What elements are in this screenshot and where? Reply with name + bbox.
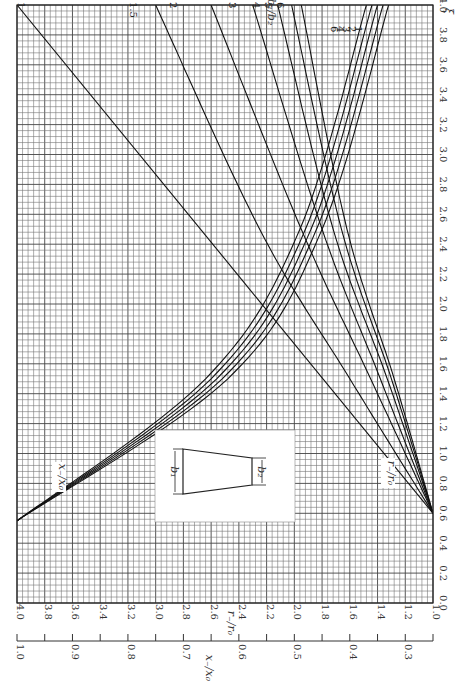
inset-diagram: b₁ b₂ (155, 430, 295, 522)
xi-tick-label: 3.2 (438, 117, 449, 133)
x-tick-label: 0.5 (292, 644, 303, 660)
xi-tick-label: 0.8 (438, 475, 449, 491)
xi-tick-label: 0.2 (438, 565, 449, 581)
r-tick-label: 1.2 (403, 604, 414, 620)
b-ratio-label: 4 (251, 2, 262, 8)
r-curve-tag: r₋/r₀ (381, 458, 398, 488)
xi-tick-label: 1.6 (438, 356, 449, 372)
inset-b1-label: b₁ (168, 466, 181, 477)
xi-tick-label: 1.4 (438, 386, 449, 402)
r-tick-label: 2.6 (209, 604, 220, 620)
b-ratio-label: 1.5 (128, 2, 139, 18)
x-tick-label: 0.7 (181, 644, 192, 660)
xi-tick-label: 3.6 (438, 57, 449, 73)
r-tick-label: 2.2 (265, 604, 276, 620)
xi-tick-label: 2.8 (438, 176, 449, 192)
xi-axis-title: ξ (442, 8, 455, 15)
r-tick-label: 3.6 (70, 604, 81, 620)
r-curve (301, 5, 433, 513)
b-ratio-label: 2 (168, 2, 179, 8)
b-ratio-label: 3 (227, 2, 238, 8)
x-axis-ticks: 1.00.90.80.70.60.50.40.3 (15, 634, 433, 660)
r-tick-label: 1.0 (431, 604, 442, 620)
x-curve-tag: x₋/x₀ (52, 462, 69, 492)
x-tick-label: 0.8 (126, 644, 137, 660)
r-axis-title: r₋/r₀ (225, 611, 238, 636)
x-tick-label: 0.4 (348, 644, 359, 660)
r-tick-label: 3.8 (43, 604, 54, 620)
x-axis-title: x₋/x₀ (203, 655, 216, 682)
inset-b2-label: b₂ (255, 466, 268, 477)
r-tick-label: 3.0 (154, 604, 165, 620)
b-ratio-label: 1 (16, 2, 27, 8)
x-tick-label: 0.3 (403, 644, 414, 660)
xi-tick-label: 3.4 (438, 87, 449, 103)
xi-tick-label: 3.8 (438, 27, 449, 43)
xi-tick-label: 2.6 (438, 206, 449, 222)
svg-text:x₋/x₀: x₋/x₀ (56, 464, 69, 491)
r-tick-label: 1.8 (320, 604, 331, 620)
r-tick-label: 3.4 (98, 604, 109, 620)
r-tick-label: 1.4 (376, 604, 387, 620)
svg-text:r₋/r₀: r₋/r₀ (385, 461, 398, 486)
xi-tick-label: 0.4 (438, 535, 449, 551)
xi-tick-label: 3.0 (438, 147, 449, 163)
param-title: b₁/b₂ (265, 0, 278, 25)
xi-tick-label: 1.0 (438, 446, 449, 462)
r-tick-label: 1.6 (348, 604, 359, 620)
nomogram-chart: b₁ b₂ x₋/x₀ r₋/r₀ 0.00.20.40.60.81.01.21… (0, 0, 455, 684)
xi-axis-ticks: 0.00.20.40.60.81.01.21.41.61.82.02.22.42… (438, 0, 449, 611)
r-tick-label: 3.2 (126, 604, 137, 620)
r-tick-label: 2.8 (181, 604, 192, 620)
r-tick-label: 4.0 (15, 604, 26, 620)
xi-tick-label: 2.0 (438, 296, 449, 312)
xi-tick-label: 2.4 (438, 236, 449, 252)
xi-tick-label: 2.2 (438, 266, 449, 282)
xi-tick-label: 0.6 (438, 505, 449, 521)
x-tick-label: 0.6 (237, 644, 248, 660)
r-tick-label: 2.0 (292, 604, 303, 620)
x-tick-label: 0.9 (70, 644, 81, 660)
x-tick-label: 1.0 (15, 644, 26, 660)
xi-tick-label: 1.8 (438, 326, 449, 342)
b-ratio-label-x: 1 (353, 26, 364, 32)
xi-tick-label: 1.2 (438, 416, 449, 432)
